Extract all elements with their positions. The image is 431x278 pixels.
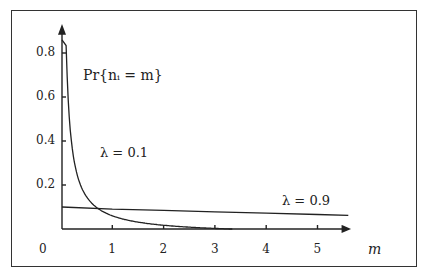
y-tick-label: 0.6 bbox=[36, 89, 55, 103]
x-tick-label: 1 bbox=[108, 242, 116, 256]
series-label-lambda-0.1: λ = 0.1 bbox=[100, 145, 148, 160]
x-tick-label: 0 bbox=[39, 242, 47, 256]
x-tick-label: 2 bbox=[160, 242, 168, 256]
series-label-lambda-0.9: λ = 0.9 bbox=[282, 193, 330, 208]
x-axis-label: m bbox=[368, 241, 381, 257]
x-tick-label: 3 bbox=[211, 242, 219, 256]
probability-annotation: Pr{nᵢ = m} bbox=[83, 67, 163, 83]
y-tick-label: 0.8 bbox=[36, 45, 55, 59]
x-tick-label: 4 bbox=[262, 242, 270, 256]
y-tick-label: 0.4 bbox=[36, 133, 55, 147]
y-tick-label: 0.2 bbox=[36, 177, 55, 191]
plot-area bbox=[0, 0, 431, 278]
series-lambda-0.9 bbox=[62, 207, 348, 215]
x-tick-label: 5 bbox=[314, 242, 322, 256]
